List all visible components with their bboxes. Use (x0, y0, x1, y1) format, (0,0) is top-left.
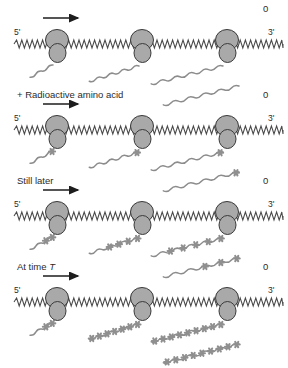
panel-3-zero-label: 0 (263, 175, 268, 186)
panel-1-three-prime-label: 3' (268, 27, 275, 37)
panel-2-radioactive-markers-4 (233, 170, 239, 175)
panel-2-three-prime-label: 3' (268, 113, 275, 123)
panel-3-stage-label: Still later (17, 175, 53, 186)
panel-3-five-prime-label: 5' (14, 199, 21, 209)
panel-2-five-prime-label: 5' (14, 113, 21, 123)
panel-4-zero-label: 0 (263, 261, 268, 272)
diagram-canvas: 05'3'+ Radioactive amino acid05'3'Still … (0, 0, 288, 368)
panel-3-three-prime-label: 3' (268, 199, 275, 209)
panel-2-radioactive-markers-2 (134, 150, 140, 155)
translation-diagram: 05'3'+ Radioactive amino acid05'3'Still … (0, 0, 288, 368)
panel-4-stage-label: At time T (17, 261, 56, 272)
panel-4-three-prime-label: 3' (268, 285, 275, 295)
panel-1-zero-label: 0 (263, 3, 268, 14)
panel-2-stage-label: + Radioactive amino acid (17, 89, 123, 100)
panel-2-radioactive-markers-3 (217, 150, 223, 155)
panel-2-radioactive-markers-1 (49, 149, 55, 154)
panel-2-zero-label: 0 (263, 89, 268, 100)
panel-4-five-prime-label: 5' (14, 285, 21, 295)
panel-1-five-prime-label: 5' (14, 27, 21, 37)
